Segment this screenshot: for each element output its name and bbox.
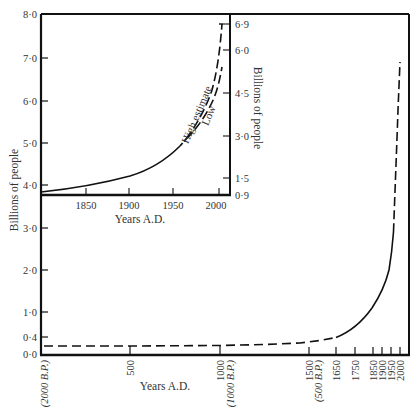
y-tick-label: 7·0 [23, 53, 37, 64]
inset-y-ticks [223, 24, 230, 178]
x-tick-label: 500 [125, 360, 136, 376]
main-curve-dashed-projection [394, 62, 401, 232]
y-tick-label: 1·0 [23, 307, 37, 318]
inset-x-tick-labels: 1850 1900 1950 2000 [76, 200, 227, 211]
inset-y-tick-label: 0·9 [235, 190, 249, 201]
main-x-axis-title: Years A.D. [140, 380, 190, 392]
inset-x-axis-title: Years A.D. [115, 213, 165, 225]
inset-y-tick-label: 4·5 [235, 88, 249, 99]
inset-x-tick-label: 1900 [119, 200, 140, 211]
inset-y-tick-label: 3·0 [235, 131, 249, 142]
main-x-tick-labels: (2000 B.P.) 500 1000 (1000 B.P.) 1500 (5… [39, 359, 406, 407]
inset-x-tick-label: 1950 [163, 200, 184, 211]
y-tick-label: 0·4 [23, 332, 38, 343]
inset-y-axis-title: Billions of people [251, 67, 264, 149]
inset-y-tick-label: 6·0 [235, 45, 249, 56]
y-tick-label: 3·0 [23, 223, 37, 234]
main-y-tick-labels: 0·0 0·4 1·0 2·0 3·0 4·0 5·0 6·0 7·0 8·0 [23, 9, 38, 360]
population-chart: 0·0 0·4 1·0 2·0 3·0 4·0 5·0 6·0 7·0 8·0 … [0, 0, 416, 417]
x-tick-label-500bp: (500 B.P.) [313, 359, 325, 402]
y-tick-label: 6·0 [23, 96, 37, 107]
y-tick-label: 2·0 [23, 265, 37, 276]
x-tick-label: 2000 [395, 360, 406, 381]
x-tick-label: 1650 [331, 360, 342, 381]
inset-observed-curve [41, 146, 180, 192]
inset-y-tick-label: 1·5 [235, 173, 249, 184]
inset-y-tick-label: 6·9 [235, 19, 249, 30]
x-tick-label: 1750 [350, 360, 361, 381]
y-tick-label: 8·0 [23, 9, 37, 20]
main-curve-solid [336, 232, 394, 338]
y-tick-label: 5·0 [23, 138, 37, 149]
inset-x-tick-label: 1850 [76, 200, 97, 211]
x-tick-label-2000bp: (2000 B.P.) [39, 359, 51, 407]
inset-x-tick-label: 2000 [206, 200, 227, 211]
main-y-axis-title: Billions of people [8, 149, 21, 231]
x-tick-label-1000bp: (1000 B.P.) [225, 359, 237, 407]
y-tick-label: 0·0 [23, 349, 37, 360]
inset-y-tick-labels: 6·9 6·0 4·5 3·0 1·5 0·9 [235, 19, 249, 201]
y-tick-label: 4·0 [23, 180, 37, 191]
main-curve-dashed-early [44, 338, 336, 347]
main-x-ticks [130, 346, 400, 355]
